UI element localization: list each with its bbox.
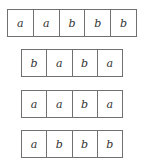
letter-cell: a <box>97 50 122 76</box>
letter-cell: a <box>46 91 71 117</box>
letter-cell: b <box>97 131 122 157</box>
letter-cell: b <box>72 50 97 76</box>
letter-cell: b <box>72 131 97 157</box>
letter-cell: a <box>97 91 122 117</box>
letter-row-3: a a b a <box>21 90 123 118</box>
letter-cell: a <box>8 10 33 36</box>
letter-cell: a <box>22 131 46 157</box>
letter-cell: a <box>46 50 71 76</box>
letter-cell: a <box>22 91 46 117</box>
letter-cell: b <box>72 91 97 117</box>
letter-cell: b <box>110 10 136 36</box>
letter-cell: b <box>46 131 71 157</box>
letter-cell: b <box>84 10 110 36</box>
letter-cell: a <box>33 10 59 36</box>
letter-row-2: b a b a <box>21 49 123 77</box>
letter-cell: b <box>22 50 46 76</box>
letter-row-4: a b b b <box>21 130 123 158</box>
letter-cell: b <box>59 10 85 36</box>
letter-row-1: a a b b b <box>7 9 137 37</box>
